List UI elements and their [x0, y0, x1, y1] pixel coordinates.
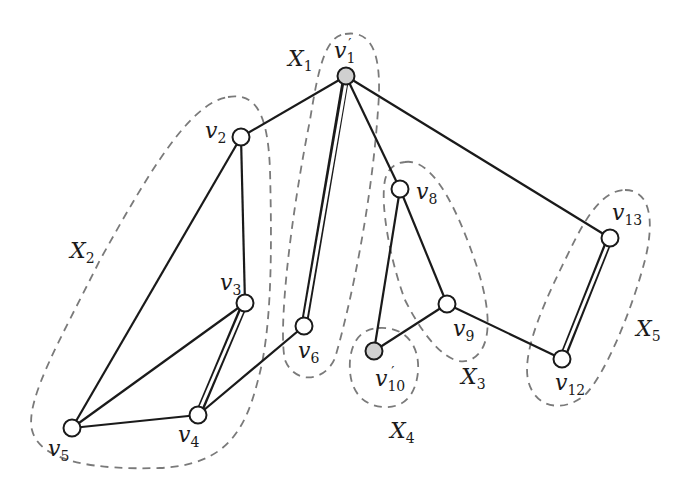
label-x4: X4: [388, 418, 415, 446]
label-v8: v8: [416, 179, 437, 207]
label-x1: X1: [286, 46, 313, 74]
node-v5: [64, 420, 81, 437]
node-v12: [554, 351, 571, 368]
label-x5: X5: [634, 316, 661, 344]
node-v8: [392, 181, 409, 198]
label-v13: v13: [612, 200, 642, 228]
node-v2: [233, 129, 250, 146]
node-v9: [439, 296, 456, 313]
label-v12: v12: [555, 370, 585, 398]
double-edge-v12-v13: [562, 238, 610, 359]
label-x2: X2: [68, 238, 95, 266]
edge-v2-v5: [72, 137, 241, 428]
node-v6: [296, 318, 313, 335]
edge-v2-v3: [241, 137, 245, 303]
graph-diagram: v1′ v2 v3 v4 v5 v6 v8 v9 v10′ v12 v13: [0, 0, 682, 492]
label-v2: v2: [205, 118, 226, 146]
node-v13: [602, 230, 619, 247]
edge-v8-v10: [374, 189, 400, 351]
edges: [72, 76, 610, 428]
node-v10-prime: [366, 343, 383, 360]
label-x3: X3: [459, 364, 486, 392]
edge-v8-v9: [400, 189, 447, 304]
label-v4: v4: [178, 422, 199, 450]
node-v1-prime: [338, 68, 355, 85]
label-v1-prime: v1′: [334, 36, 355, 66]
label-v9: v9: [453, 316, 474, 344]
label-v5: v5: [48, 436, 69, 464]
label-v10-prime: v10′: [375, 364, 405, 394]
node-v4: [190, 407, 207, 424]
label-v3: v3: [220, 270, 241, 298]
label-v6: v6: [298, 338, 319, 366]
